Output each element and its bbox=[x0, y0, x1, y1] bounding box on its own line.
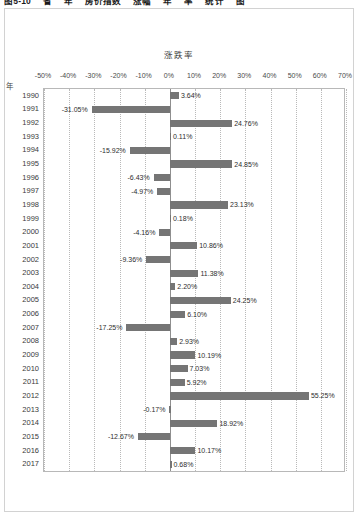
chart-row: 1994-15.92% bbox=[44, 144, 344, 158]
chart-row: 1996-6.43% bbox=[44, 171, 344, 185]
y-tick-label: 2006 bbox=[22, 310, 39, 318]
x-tick-label: 50% bbox=[288, 72, 302, 79]
y-tick-label: 2014 bbox=[22, 419, 39, 427]
y-tick-label: 2013 bbox=[22, 406, 39, 414]
bar bbox=[157, 188, 170, 195]
y-tick-label: 1995 bbox=[22, 160, 39, 168]
bar bbox=[170, 133, 171, 140]
y-tick-label: 2003 bbox=[22, 269, 39, 277]
chart-row: 2015-12.67% bbox=[44, 430, 344, 444]
chart-row: 201610.17% bbox=[44, 444, 344, 458]
y-tick-label: 1991 bbox=[22, 105, 39, 113]
x-tick-label: 20% bbox=[212, 72, 226, 79]
bar-value-label: 5.92% bbox=[187, 379, 207, 386]
chart-row: 201255.25% bbox=[44, 389, 344, 403]
y-tick-label: 2002 bbox=[22, 256, 39, 264]
x-axis-ticks: -50%-40%-30%-20%-10%0%10%20%30%40%50%60%… bbox=[0, 72, 358, 84]
bar bbox=[126, 324, 169, 331]
bar-value-label: 2.20% bbox=[177, 283, 197, 290]
y-tick-label: 2001 bbox=[22, 242, 39, 250]
bar-value-label: 10.19% bbox=[197, 352, 221, 359]
chart-row: 200524.25% bbox=[44, 294, 344, 308]
bar-value-label: 3.64% bbox=[181, 92, 201, 99]
y-tick-label: 1998 bbox=[22, 201, 39, 209]
bar-value-label: 10.17% bbox=[197, 447, 221, 454]
bar-value-label: -4.97% bbox=[131, 188, 153, 195]
gridline bbox=[346, 89, 347, 471]
y-tick-label: 2017 bbox=[22, 460, 39, 468]
bar bbox=[159, 229, 169, 236]
bar-value-label: 24.76% bbox=[234, 120, 258, 127]
chart-row: 20115.92% bbox=[44, 376, 344, 390]
bar-value-label: 0.68% bbox=[174, 461, 194, 468]
x-tick-label: 40% bbox=[262, 72, 276, 79]
bar-value-label: -31.05% bbox=[62, 106, 88, 113]
chart-row: 200110.86% bbox=[44, 239, 344, 253]
x-tick-label: -30% bbox=[85, 72, 101, 79]
x-tick-label: -50% bbox=[35, 72, 51, 79]
chart-row: 20170.68% bbox=[44, 457, 344, 471]
chart-row: 19990.18% bbox=[44, 212, 344, 226]
bar-value-label: -17.25% bbox=[96, 324, 122, 331]
bar-value-label: 0.18% bbox=[173, 215, 193, 222]
bar-value-label: 24.85% bbox=[234, 161, 258, 168]
y-tick-label: 1993 bbox=[22, 133, 39, 141]
x-tick-label: -40% bbox=[60, 72, 76, 79]
chart-row: 19903.64% bbox=[44, 89, 344, 103]
chart-row: 2007-17.25% bbox=[44, 321, 344, 335]
bar bbox=[170, 120, 232, 127]
bar-value-label: 24.25% bbox=[233, 297, 257, 304]
y-tick-label: 2015 bbox=[22, 433, 39, 441]
bar-value-label: 7.03% bbox=[190, 365, 210, 372]
bar bbox=[170, 283, 176, 290]
bar bbox=[170, 365, 188, 372]
bar bbox=[170, 297, 231, 304]
x-tick-label: -20% bbox=[110, 72, 126, 79]
bar-value-label: 0.11% bbox=[173, 133, 192, 140]
bar-value-label: -12.67% bbox=[108, 433, 134, 440]
bar bbox=[169, 406, 170, 413]
bar bbox=[146, 256, 170, 263]
y-tick-label: 1990 bbox=[22, 92, 39, 100]
x-tick-label: 10% bbox=[187, 72, 201, 79]
bar bbox=[170, 392, 309, 399]
chart-title: 涨跌率 bbox=[0, 48, 358, 60]
y-tick-label: 2004 bbox=[22, 283, 39, 291]
bar bbox=[170, 379, 185, 386]
chart-row: 20066.10% bbox=[44, 307, 344, 321]
bar-value-label: -4.16% bbox=[133, 229, 155, 236]
bar bbox=[170, 92, 179, 99]
bar bbox=[130, 147, 170, 154]
y-tick-label: 2008 bbox=[22, 337, 39, 345]
bar-value-label: -0.17% bbox=[143, 406, 165, 413]
y-tick-label: 2012 bbox=[22, 392, 39, 400]
bar bbox=[170, 420, 218, 427]
bar-value-label: -15.92% bbox=[100, 147, 126, 154]
y-tick-label: 1997 bbox=[22, 187, 39, 195]
y-tick-label: 2007 bbox=[22, 324, 39, 332]
y-tick-label: 1996 bbox=[22, 174, 39, 182]
bar-value-label: 18.92% bbox=[219, 420, 243, 427]
chart-row: 2013-0.17% bbox=[44, 403, 344, 417]
chart-row: 1997-4.97% bbox=[44, 185, 344, 199]
chart-row: 1991-31.05% bbox=[44, 103, 344, 117]
chart-row: 199224.76% bbox=[44, 116, 344, 130]
x-tick-label: 30% bbox=[237, 72, 251, 79]
bar bbox=[170, 201, 228, 208]
chart-row: 199524.85% bbox=[44, 157, 344, 171]
chart-row: 200311.38% bbox=[44, 266, 344, 280]
bar bbox=[170, 270, 199, 277]
y-tick-label: 1992 bbox=[22, 119, 39, 127]
bar bbox=[170, 311, 185, 318]
figure-caption: 图5-10 省 年 房价指数 涨幅 年 率 统计 图 bbox=[4, 0, 354, 6]
bar-value-label: 6.10% bbox=[187, 311, 207, 318]
bar bbox=[170, 351, 196, 358]
y-tick-label: 1999 bbox=[22, 215, 39, 223]
y-tick-label: 1994 bbox=[22, 146, 39, 154]
bar bbox=[170, 242, 197, 249]
y-tick-label: 2010 bbox=[22, 365, 39, 373]
x-tick-label: 60% bbox=[313, 72, 327, 79]
chart-row: 19930.11% bbox=[44, 130, 344, 144]
bar bbox=[154, 174, 170, 181]
chart-row: 199823.13% bbox=[44, 198, 344, 212]
